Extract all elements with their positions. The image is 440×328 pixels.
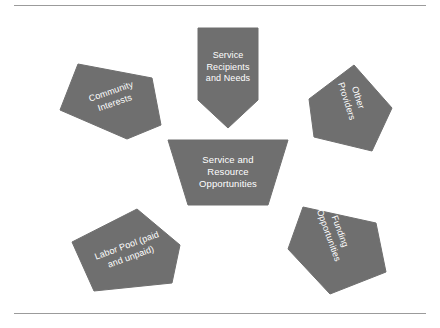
diagram-page: Service and Resource OpportunitiesServic… bbox=[0, 0, 440, 328]
node-shape-service-and-resource-opportunities[interactable] bbox=[168, 140, 288, 205]
node-shape-community-interests[interactable] bbox=[60, 64, 161, 139]
node-shape-labor-pool-paid-and-unpaid[interactable] bbox=[72, 209, 180, 291]
diagram-canvas bbox=[0, 0, 440, 328]
node-shape-other-providers[interactable] bbox=[309, 65, 392, 151]
node-shape-service-recipients-and-needs[interactable] bbox=[198, 28, 258, 128]
node-shape-funding-opportunities[interactable] bbox=[288, 207, 386, 294]
